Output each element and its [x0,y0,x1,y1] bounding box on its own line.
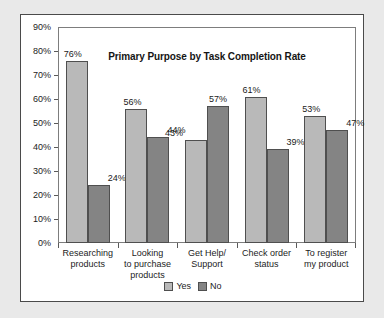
legend-swatch-icon [164,282,173,291]
bar-group: 61%39% [245,27,289,243]
legend-label: Yes [176,282,191,291]
y-tick-label: 30% [33,167,51,176]
bar-group: 53%47% [304,27,348,243]
chart-panel: 90%80%70%60%50%40%30%20%10%0% Primary Pu… [20,14,364,302]
bar-value-label: 24% [108,174,126,183]
bar-no [326,130,348,243]
y-tick-label: 10% [33,215,51,224]
y-tick-label: 80% [33,47,51,56]
bar-value-label: 76% [64,50,82,59]
chart-legend: YesNo [21,282,365,291]
bar-yes [245,97,267,243]
bars-layer: 76%24%56%44%43%57%61%39%53%47% [58,27,356,243]
bar-no [147,137,169,243]
legend-swatch-icon [198,282,207,291]
bar-value-label: 57% [209,95,227,104]
y-tick-label: 70% [33,71,51,80]
y-tick-label: 60% [33,95,51,104]
bar-yes [185,140,207,243]
bar-no [207,106,229,243]
legend-label: No [210,282,222,291]
category-label: Check orderstatus [237,248,297,270]
y-tick-label: 20% [33,191,51,200]
bar-group: 56%44% [125,27,169,243]
y-tick-label: 50% [33,119,51,128]
legend-item-yes[interactable]: Yes [164,282,191,291]
y-axis: 90%80%70%60%50%40%30%20%10%0% [21,15,58,255]
bar-yes [125,109,147,243]
category-label: To registermy product [296,248,356,270]
category-label: Lookingto purchaseproducts [118,248,178,281]
category-label: Get Help/Support [177,248,237,270]
bar-value-label: 56% [123,98,141,107]
bar-value-label: 43% [165,129,183,138]
bar-group: 43%57% [185,27,229,243]
bar-yes [66,61,88,243]
y-tick-label: 0% [38,239,51,248]
bar-no [88,185,110,243]
y-tick-label: 40% [33,143,51,152]
category-label: Researchingproducts [58,248,118,270]
legend-item-no[interactable]: No [198,282,222,291]
bar-value-label: 61% [243,86,261,95]
bar-group: 76%24% [66,27,110,243]
bar-value-label: 39% [287,138,305,147]
bar-value-label: 53% [302,105,320,114]
y-tick-label: 90% [33,23,51,32]
bar-yes [304,116,326,243]
bar-no [267,149,289,243]
bar-value-label: 47% [346,119,364,128]
